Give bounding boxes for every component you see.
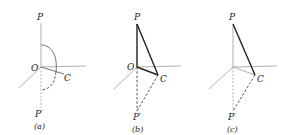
panel-c: P C P′ (c) [209, 12, 277, 134]
horizontal-axis-c [233, 66, 277, 67]
line-cp-prime-c [233, 75, 255, 111]
caption-c: (c) [227, 125, 238, 134]
line-cp-prime-b [137, 75, 158, 111]
label-c-b: C [160, 74, 167, 84]
label-c-a: C [64, 73, 71, 83]
label-o-b: O [127, 62, 135, 72]
label-pprime-a: P′ [34, 109, 43, 119]
label-o-a: O [31, 63, 39, 73]
panel-b: P O C P′ (b) [114, 12, 181, 134]
panel-a: P O C P′ (a) [19, 12, 86, 131]
label-p-a: P [36, 12, 44, 22]
label-p-b: P [133, 12, 141, 22]
horizontal-axis-b [137, 66, 181, 67]
line-oc-a [41, 67, 64, 74]
label-c-c: C [257, 74, 264, 84]
label-pprime-c: P′ [227, 112, 236, 122]
figure-canvas: P O C P′ (a) P O C P′ (b) P C P′ (c) [0, 0, 297, 135]
horizontal-axis-a [41, 66, 86, 67]
diagonal-axis-c [209, 67, 233, 89]
label-p-c: P [228, 12, 236, 22]
arc-dashed-a [41, 72, 56, 90]
caption-a: (a) [34, 122, 45, 131]
label-pprime-b: P′ [132, 112, 141, 122]
caption-b: (b) [132, 125, 143, 134]
